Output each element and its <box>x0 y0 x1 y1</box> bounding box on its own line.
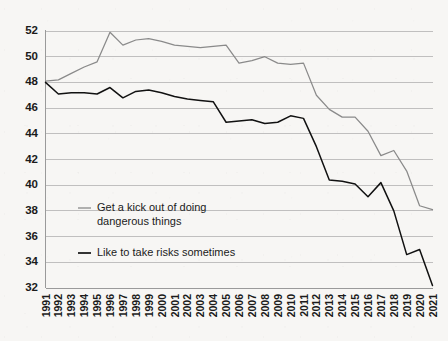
x-axis-tick-label: 1993 <box>65 294 77 318</box>
x-axis-labels-group: 1991199219931994199519961997199819992000… <box>40 294 439 318</box>
x-axis-tick-label: 2015 <box>349 294 361 318</box>
x-axis-tick-label: 1994 <box>78 294 90 318</box>
x-axis-tick-label: 2012 <box>310 294 322 318</box>
x-axis-tick-label: 2000 <box>156 294 168 318</box>
y-axis-tick-label: 44 <box>25 127 38 139</box>
x-axis-tick-label: 1992 <box>52 294 64 318</box>
x-axis-tick-label: 2013 <box>323 294 335 318</box>
x-axis-tick-label: 1991 <box>40 294 52 318</box>
y-axis-tick-label: 36 <box>25 230 38 242</box>
x-axis-tick-label: 2004 <box>207 294 219 318</box>
x-axis-tick-label: 2010 <box>285 294 297 318</box>
x-axis-tick-label: 1995 <box>91 294 103 318</box>
line-chart-svg: 3234363840424446485052 19911992199319941… <box>0 0 448 341</box>
y-axis-tick-label: 40 <box>25 178 38 190</box>
x-axis-tick-label: 2007 <box>246 294 258 318</box>
x-axis-tick-label: 2008 <box>259 294 271 318</box>
x-axis-tick-label: 2003 <box>194 294 206 318</box>
legend-label-0: Get a kick out of doing <box>97 201 206 213</box>
x-axis-tick-label: 2016 <box>362 294 374 318</box>
x-axis-tick-label: 2021 <box>427 294 439 318</box>
x-axis-tick-label: 1996 <box>104 294 116 318</box>
legend-label-1: Like to take risks sometimes <box>97 246 236 258</box>
y-axis-tick-label: 32 <box>25 281 38 293</box>
x-axis-tick-label: 2002 <box>181 294 193 318</box>
x-axis-tick-label: 2006 <box>233 294 245 318</box>
x-axis-tick-label: 2014 <box>336 294 348 318</box>
y-axis-tick-label: 38 <box>25 204 38 216</box>
x-axis-tick-label: 2018 <box>388 294 400 318</box>
legend-label-0-line2: dangerous things <box>97 215 182 227</box>
x-axis-tick-label: 1997 <box>117 294 129 318</box>
y-axis-tick-label: 52 <box>25 24 38 36</box>
x-axis-tick-label: 2017 <box>375 294 387 318</box>
x-axis-tick-label: 2011 <box>298 294 310 317</box>
y-axis-labels-group: 3234363840424446485052 <box>25 24 38 293</box>
x-axis-tick-label: 2019 <box>401 294 413 318</box>
y-axis-tick-label: 34 <box>25 255 38 267</box>
x-axis-tick-label: 1998 <box>130 294 142 318</box>
x-axis-tick-label: 2009 <box>272 294 284 318</box>
y-axis-tick-label: 46 <box>25 101 38 113</box>
x-axis-tick-label: 2020 <box>414 294 426 318</box>
y-axis-tick-label: 48 <box>25 75 38 87</box>
x-axis-tick-label: 1999 <box>143 294 155 318</box>
y-axis-tick-label: 50 <box>25 50 38 62</box>
x-axis-tick-label: 2001 <box>169 294 181 318</box>
chart-container: 3234363840424446485052 19911992199319941… <box>0 0 448 341</box>
y-axis-tick-label: 42 <box>25 153 38 165</box>
x-axis-tick-label: 2005 <box>220 294 232 318</box>
legend-group: Get a kick out of doingdangerous thingsL… <box>78 201 236 258</box>
